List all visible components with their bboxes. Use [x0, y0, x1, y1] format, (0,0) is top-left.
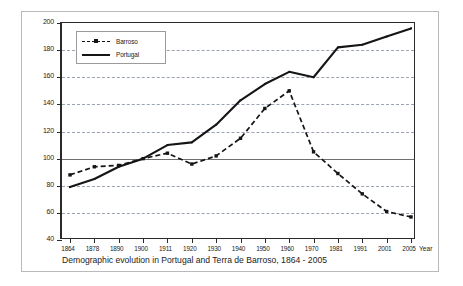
data-point-barroso-1864 — [68, 173, 71, 176]
data-point-barroso-1991 — [361, 192, 364, 195]
data-point-portugal-2005 — [410, 28, 412, 30]
legend-label-portugal: Portugal — [116, 51, 139, 58]
y-axis-label-160: 160 — [36, 72, 54, 79]
data-point-portugal-1950 — [264, 83, 266, 85]
y-axis-label-60: 60 — [36, 208, 54, 215]
data-point-portugal-1981 — [337, 47, 339, 49]
data-point-barroso-1940 — [239, 137, 242, 140]
x-axis-label-1940: 1940 — [232, 245, 245, 252]
data-point-portugal-1930 — [215, 124, 217, 126]
data-point-portugal-1991 — [361, 44, 363, 46]
legend-item-portugal: Portugal — [81, 48, 161, 61]
y-axis-label-40: 40 — [36, 235, 54, 242]
x-axis-label-1970: 1970 — [305, 245, 318, 252]
y-axis-label-180: 180 — [36, 45, 54, 52]
data-point-portugal-2001 — [386, 36, 388, 38]
data-point-portugal-1878 — [93, 178, 95, 180]
figure-caption: Demographic evolution in Portugal and Te… — [62, 255, 327, 265]
x-axis-label-1890: 1890 — [110, 245, 123, 252]
data-point-portugal-1890 — [118, 166, 120, 168]
data-point-portugal-1940 — [240, 99, 242, 101]
legend-item-barroso: Barroso — [81, 35, 161, 48]
x-axis-label-2001: 2001 — [378, 245, 391, 252]
legend-label-barroso: Barroso — [116, 38, 138, 45]
series-markers-barroso — [68, 89, 412, 219]
x-axis-label-1878: 1878 — [86, 245, 99, 252]
y-tick-40 — [57, 240, 62, 241]
x-axis-title: Year — [419, 245, 432, 252]
x-axis-label-1930: 1930 — [207, 245, 220, 252]
data-point-barroso-1960 — [288, 89, 291, 92]
data-point-portugal-1960 — [288, 71, 290, 73]
y-axis-label-120: 120 — [36, 127, 54, 134]
data-point-barroso-2001 — [385, 210, 388, 213]
data-point-barroso-1981 — [336, 172, 339, 175]
data-point-barroso-1878 — [93, 165, 96, 168]
legend-swatch-portugal-icon — [81, 50, 111, 60]
data-point-barroso-1930 — [214, 154, 217, 157]
data-point-barroso-1950 — [263, 107, 266, 110]
data-point-portugal-1900 — [142, 158, 144, 160]
data-point-barroso-1970 — [312, 150, 315, 153]
data-point-portugal-1970 — [313, 76, 315, 78]
y-axis-label-80: 80 — [36, 181, 54, 188]
legend-swatch-barroso-icon — [81, 37, 111, 47]
x-axis-label-2005: 2005 — [402, 245, 415, 252]
y-axis-label-100: 100 — [36, 154, 54, 161]
x-axis-label-1900: 1900 — [134, 245, 147, 252]
series-line-barroso — [70, 91, 411, 217]
data-point-portugal-1911 — [167, 144, 169, 146]
chart-legend: Barroso Portugal — [76, 31, 166, 64]
data-point-portugal-1864 — [69, 186, 71, 188]
data-point-barroso-1920 — [190, 162, 193, 165]
y-axis-label-200: 200 — [36, 18, 54, 25]
x-axis-label-1960: 1960 — [280, 245, 293, 252]
x-axis-label-1991: 1991 — [354, 245, 367, 252]
data-point-barroso-2005 — [409, 215, 412, 218]
data-point-barroso-1911 — [166, 152, 169, 155]
x-axis-label-1920: 1920 — [183, 245, 196, 252]
x-axis-label-1950: 1950 — [256, 245, 269, 252]
data-point-portugal-1920 — [191, 141, 193, 143]
x-axis-label-1981: 1981 — [329, 245, 342, 252]
chart-figure: indices, 1900 = 100 40608010012014016018… — [0, 0, 463, 286]
x-axis-label-1864: 1864 — [61, 245, 74, 252]
x-axis-label-1911: 1911 — [159, 245, 172, 252]
y-axis-label-140: 140 — [36, 99, 54, 106]
